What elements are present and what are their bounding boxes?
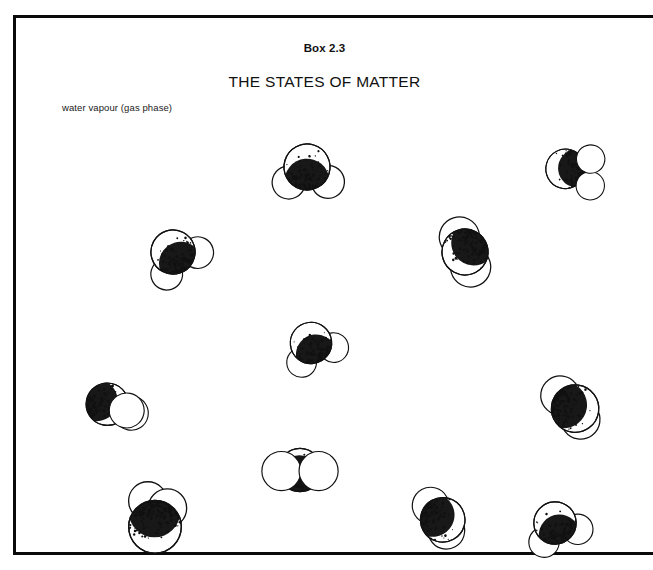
page-title: THE STATES OF MATTER	[0, 73, 649, 91]
water-molecule	[100, 468, 210, 570]
water-molecule	[118, 197, 228, 307]
hydrogen-atom-2	[299, 452, 338, 491]
hydrogen-atom-1	[262, 452, 301, 491]
water-molecule	[56, 350, 166, 460]
water-molecule	[252, 112, 362, 222]
water-molecule	[410, 197, 520, 307]
water-molecule	[256, 288, 366, 398]
water-molecule	[245, 415, 355, 525]
box-number-label: Box 2.3	[0, 42, 649, 54]
water-molecule	[500, 468, 610, 570]
water-molecule	[519, 117, 629, 227]
phase-annotation-label: water vapour (gas phase)	[62, 102, 172, 113]
water-molecule	[386, 463, 496, 570]
water-molecule	[518, 352, 628, 462]
